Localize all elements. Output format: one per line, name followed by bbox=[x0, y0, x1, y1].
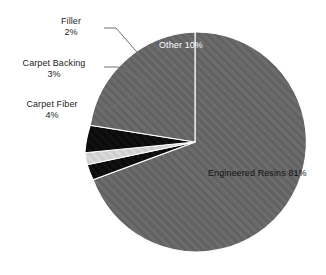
slice-label-carpet-fiber: Carpet Fiber 4% bbox=[8, 99, 96, 121]
slice-label-carpet-backing-percent: 3% bbox=[6, 69, 102, 80]
slice-label-other-percent: 10% bbox=[185, 40, 203, 50]
slice-label-engineered-resins: Engineered Resins 81% bbox=[208, 168, 284, 179]
slice-label-carpet-backing-name: Carpet Backing bbox=[23, 58, 86, 68]
slice-label-filler-name: Filler bbox=[61, 16, 81, 26]
slice-label-carpet-fiber-name: Carpet Fiber bbox=[26, 99, 77, 109]
slice-label-engineered-resins-name-line2: Resins bbox=[258, 168, 286, 178]
slice-label-carpet-fiber-percent: 4% bbox=[8, 110, 96, 121]
slice-label-filler-percent: 2% bbox=[40, 27, 102, 38]
slice-label-engineered-resins-name-line1: Engineered bbox=[208, 168, 255, 178]
slice-label-carpet-backing: Carpet Backing 3% bbox=[6, 58, 102, 80]
slice-label-other: Other 10% bbox=[152, 40, 210, 51]
slice-label-other-name: Other bbox=[159, 40, 182, 50]
slice-label-engineered-resins-percent: 81% bbox=[288, 168, 306, 178]
slice-label-filler: Filler 2% bbox=[40, 16, 102, 38]
pie-chart: Filler 2% Carpet Backing 3% Carpet Fiber… bbox=[0, 0, 326, 275]
